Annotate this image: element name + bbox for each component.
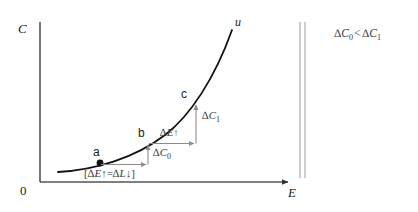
delta-c1-label: ∆C1 — [202, 110, 220, 124]
delta-c1-text: ∆C — [202, 109, 216, 121]
delta-c0-label: ∆C0 — [153, 147, 171, 161]
cost-curve-u — [58, 30, 232, 172]
bracket-delta-l: ∆L — [113, 167, 126, 179]
delta-e-upper-text: ∆E — [160, 126, 173, 138]
relation-left-term: ∆C — [334, 27, 349, 39]
relation-right-term: ∆C — [362, 27, 377, 39]
point-marker-a — [97, 160, 104, 167]
figure-container: C E 0 u a b c ∆C0 ∆C1 ∆E↑ [∆E↑=∆L↓] ∆C0<… — [0, 0, 418, 212]
point-label-a: a — [93, 146, 100, 158]
relation-expression: ∆C0<∆C1 — [334, 28, 381, 42]
delta-c0-subscript: 0 — [167, 152, 171, 161]
y-axis-label: C — [18, 22, 27, 35]
bracket-close: ] — [131, 167, 135, 179]
delta-e-upper-arrow-glyph: ↑ — [173, 127, 178, 138]
delta-c1-subscript: 1 — [216, 115, 220, 124]
bracket-delta-e: ∆E — [88, 167, 101, 179]
x-axis-label: E — [288, 186, 296, 199]
curve-label-u: u — [235, 16, 241, 28]
relation-right-subscript: 1 — [377, 33, 381, 42]
delta-c0-text: ∆C — [153, 146, 167, 158]
point-label-c: c — [181, 88, 187, 100]
origin-label: 0 — [20, 184, 27, 197]
delta-e-upper-label: ∆E↑ — [160, 127, 178, 138]
relation-operator: < — [353, 27, 362, 39]
point-label-b: b — [138, 127, 145, 139]
equal-step-annotation: [∆E↑=∆L↓] — [84, 168, 135, 179]
